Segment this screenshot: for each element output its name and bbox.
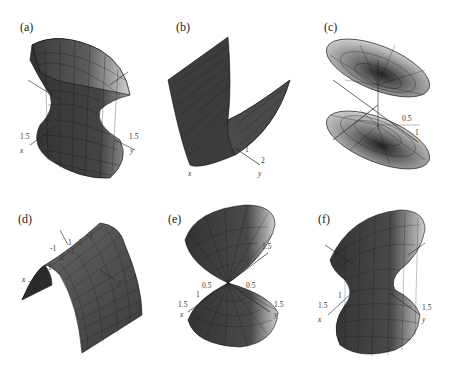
tick-x-1: 1 — [196, 290, 200, 299]
axis-label-x: x — [19, 146, 24, 155]
axis-label-x: x — [317, 315, 322, 324]
hyperboloid-one-sheet-plot-a: 1.5 x 1.5 y — [0, 0, 150, 185]
hyperboloid-two-sheets-plot-c: 0.5 1 — [300, 0, 450, 185]
tick-y-1.5: 1.5 — [422, 303, 432, 312]
parabolic-cylinder-plot-d: 3 2 1 0 -1 1 -1 -2 -3 x y — [0, 185, 150, 370]
tick-x-neg1: -1 — [50, 244, 56, 253]
axis-label-y: y — [273, 310, 278, 319]
axis-label-x: x — [187, 169, 192, 178]
elliptic-cone-plot-e: 0.5 1 1.5 0.5 1.5 1.5 x y — [150, 185, 300, 370]
axis-label-x: x — [21, 275, 26, 284]
tick-y-neg2: -2 — [76, 238, 82, 247]
axis-label-y: y — [421, 315, 426, 324]
parabolic-cylinder-plot-b: 1 2 x y — [150, 0, 300, 185]
tick-y-1.5: 1.5 — [129, 132, 139, 141]
tick-x-1.5: 1.5 — [20, 132, 30, 141]
tick-y-1.5: 1.5 — [274, 300, 284, 309]
tick-x-0: 0 — [60, 253, 64, 262]
tick-y-1: 1 — [68, 238, 72, 247]
tick-x-0.5: 0.5 — [202, 281, 212, 290]
tick-x-1.5: 1.5 — [318, 301, 328, 310]
axis-label-y: y — [129, 146, 134, 155]
tick-y-neg1: -1 — [68, 247, 74, 256]
axis-label-y: y — [257, 169, 262, 178]
axis-label-y: y — [117, 277, 122, 286]
axis-label-x: x — [179, 310, 184, 319]
panel-f: (f) 1 1.5 1.5 x y — [300, 185, 450, 370]
tick-y-0.5: 0.5 — [246, 281, 256, 290]
panel-d: (d) 3 2 1 0 -1 1 -1 -2 -3 x y — [0, 185, 150, 370]
tick-x-1.5: 1.5 — [178, 300, 188, 309]
panel-b: (b) 1 2 x y — [150, 0, 300, 185]
tick-x-2: 2 — [38, 271, 42, 280]
tick-x-1: 1 — [338, 291, 342, 300]
tick-y-1: 1 — [245, 145, 249, 154]
tick-y-2: 2 — [261, 156, 265, 165]
tick-y-neg3: -3 — [86, 231, 92, 240]
tick-x-3: 3 — [28, 280, 32, 289]
tick-1: 1 — [415, 128, 419, 137]
hyperboloid-one-sheet-plot-f: 1 1.5 1.5 x y — [300, 185, 450, 370]
panel-a: (a) 1.5 x 1.5 y — [0, 0, 150, 185]
tick-0.5: 0.5 — [402, 114, 412, 123]
panel-e: (e) 0.5 1 1.5 0.5 1.5 1.5 x y — [150, 185, 300, 370]
tick-z-1.5: 1.5 — [262, 242, 272, 251]
tick-x-1: 1 — [48, 263, 52, 272]
panel-c: (c) 0.5 1 — [300, 0, 450, 185]
